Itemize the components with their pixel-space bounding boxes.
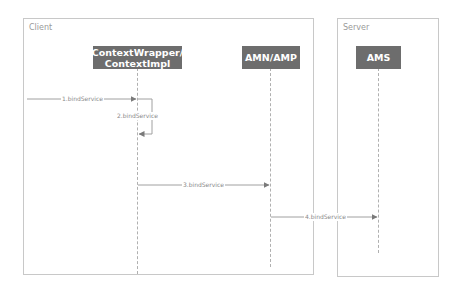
message-2-label: 2.bindService	[116, 112, 159, 120]
message-1-label: 1.bindService	[61, 95, 104, 103]
message-4-label: 4.bindService	[304, 213, 347, 221]
message-arrows	[0, 0, 461, 287]
message-3-label: 3.bindService	[182, 181, 225, 189]
